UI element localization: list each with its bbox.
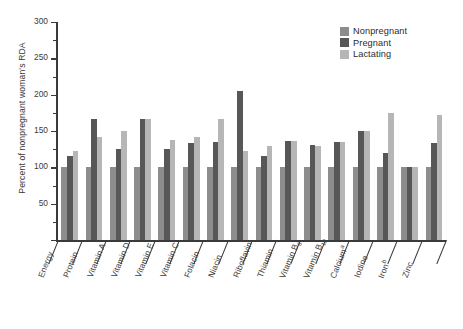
bar bbox=[437, 115, 443, 240]
bar-group bbox=[58, 22, 82, 240]
legend-item: Pregnant bbox=[340, 38, 407, 48]
x-tick bbox=[266, 240, 277, 265]
bar bbox=[291, 141, 297, 240]
x-tick bbox=[121, 240, 132, 265]
rda-bar-chart: Percent of nonpregnant woman's RDA 50100… bbox=[0, 0, 463, 329]
y-tick-label: 50 bbox=[39, 198, 48, 208]
x-tick bbox=[436, 240, 447, 265]
x-tick bbox=[339, 240, 350, 265]
bar-group bbox=[300, 22, 324, 240]
y-tick-minor bbox=[53, 113, 56, 114]
bar bbox=[145, 119, 151, 240]
x-tick bbox=[145, 240, 156, 265]
y-tick-major: 300 bbox=[51, 22, 56, 23]
y-tick-major: 100 bbox=[51, 167, 56, 168]
chart-legend: NonpregnantPregnantLactating bbox=[340, 26, 407, 59]
bar bbox=[243, 151, 249, 240]
bar bbox=[121, 131, 127, 240]
bar-group bbox=[276, 22, 300, 240]
y-tick-label: 250 bbox=[34, 52, 48, 62]
bar-group bbox=[228, 22, 252, 240]
legend-label: Nonpregnant bbox=[353, 26, 407, 36]
bar-group bbox=[179, 22, 203, 240]
x-tick bbox=[315, 240, 326, 265]
y-tick-minor bbox=[53, 77, 56, 78]
x-tick bbox=[96, 240, 107, 265]
bar-group bbox=[82, 22, 106, 240]
y-tick-minor bbox=[53, 222, 56, 223]
legend-item: Nonpregnant bbox=[340, 26, 407, 36]
y-axis-title: Percent of nonpregnant woman's RDA bbox=[17, 3, 27, 233]
bar bbox=[315, 146, 321, 240]
x-tick bbox=[291, 240, 302, 265]
y-tick-major: 250 bbox=[51, 58, 56, 59]
bar bbox=[73, 151, 79, 240]
x-tick bbox=[72, 240, 83, 265]
y-tick-minor bbox=[53, 149, 56, 150]
x-tick bbox=[412, 240, 423, 265]
x-tick bbox=[194, 240, 205, 265]
x-tick bbox=[169, 240, 180, 265]
bar bbox=[412, 167, 418, 240]
bar bbox=[364, 131, 370, 240]
bar bbox=[340, 142, 346, 240]
legend-swatch-icon bbox=[340, 50, 349, 59]
legend-item: Lactating bbox=[340, 49, 407, 59]
bar-group bbox=[422, 22, 446, 240]
bar bbox=[267, 146, 273, 240]
bar bbox=[170, 140, 176, 240]
x-tick bbox=[48, 240, 59, 265]
y-tick-minor bbox=[53, 186, 56, 187]
bar-group bbox=[155, 22, 179, 240]
bar bbox=[194, 137, 200, 240]
legend-label: Lactating bbox=[353, 49, 391, 59]
x-tick bbox=[363, 240, 374, 265]
x-tick bbox=[242, 240, 253, 265]
legend-swatch-icon bbox=[340, 38, 349, 47]
y-tick-label: 200 bbox=[34, 89, 48, 99]
x-axis-tick-marks bbox=[56, 240, 448, 264]
bar bbox=[218, 119, 224, 240]
y-tick-minor bbox=[53, 40, 56, 41]
y-tick-label: 100 bbox=[34, 161, 48, 171]
bar bbox=[388, 113, 394, 240]
y-tick-major: 50 bbox=[51, 204, 56, 205]
y-tick-major: 200 bbox=[51, 95, 56, 96]
bar-group bbox=[203, 22, 227, 240]
y-tick-label: 300 bbox=[34, 16, 48, 26]
bar-group bbox=[130, 22, 154, 240]
y-tick-label: 150 bbox=[34, 125, 48, 135]
bar-group bbox=[252, 22, 276, 240]
bar bbox=[97, 137, 103, 240]
y-tick-major: 150 bbox=[51, 131, 56, 132]
x-tick bbox=[388, 240, 399, 265]
legend-label: Pregnant bbox=[353, 38, 391, 48]
x-tick bbox=[218, 240, 229, 265]
legend-swatch-icon bbox=[340, 27, 349, 36]
bar-group bbox=[106, 22, 130, 240]
